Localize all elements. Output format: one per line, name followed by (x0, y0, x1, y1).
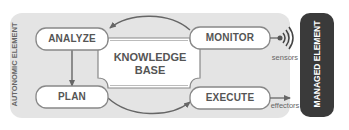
mape-k-diagram: ANALYZE PLAN MONITOR EXECUTE KNOWLEDGE B… (0, 0, 349, 130)
knowledge-base-label: KNOWLEDGE BASE (100, 51, 200, 77)
sensor-dot (278, 36, 283, 41)
knowledge-base-line2: BASE (100, 64, 200, 77)
analyze-label: ANALYZE (36, 33, 108, 44)
plan-label: PLAN (36, 91, 108, 102)
autonomic-element-label: AUTONOMIC ELEMENT (10, 15, 19, 115)
managed-element-label: MANAGED ELEMENT (312, 14, 322, 114)
monitor-label: MONITOR (190, 32, 270, 43)
execute-label: EXECUTE (190, 92, 270, 103)
effectors-label: effectors (266, 101, 304, 110)
knowledge-base-line1: KNOWLEDGE (100, 51, 200, 64)
sensors-label: sensors (268, 53, 302, 62)
